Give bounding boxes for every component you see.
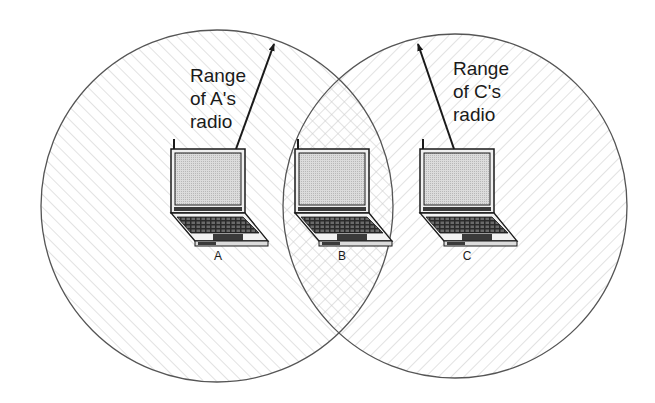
node-label-a: A [214,249,222,263]
node-label-c: C [463,249,472,263]
diagram-canvas: A B C Range of A's radio Range of C's ra… [0,0,655,403]
range-label-c-line1: Range [453,58,509,79]
range-label-a-line1: Range [190,65,246,86]
node-label-b: B [338,249,346,263]
range-label-a-line2: of A's [190,88,236,109]
range-label-c-line2: of C's [453,81,501,102]
range-label-a-line3: radio [190,111,232,132]
range-label-c-line3: radio [453,104,495,125]
